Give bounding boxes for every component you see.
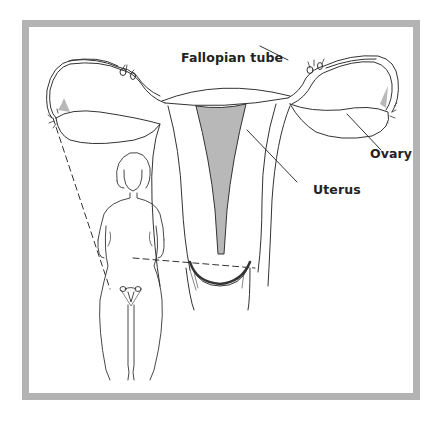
label-uterus: Uterus xyxy=(313,182,361,197)
ovary-right xyxy=(290,104,389,138)
cervix xyxy=(190,262,250,284)
uterine-cavity xyxy=(196,104,246,254)
ovary-left xyxy=(56,111,160,144)
uterus-fundus xyxy=(162,88,290,101)
body-silhouette xyxy=(98,153,164,380)
label-fallopian-tube: Fallopian tube xyxy=(181,50,283,65)
uterus-body xyxy=(168,106,190,270)
label-ovary: Ovary xyxy=(370,146,412,161)
